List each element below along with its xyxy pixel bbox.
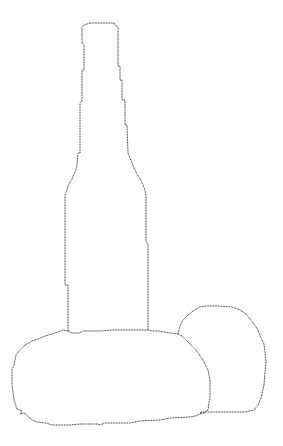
oval-loaf-outline [12, 330, 210, 425]
bottle-outline [65, 23, 148, 331]
ball-outline [178, 306, 266, 413]
line-drawing [0, 0, 283, 446]
